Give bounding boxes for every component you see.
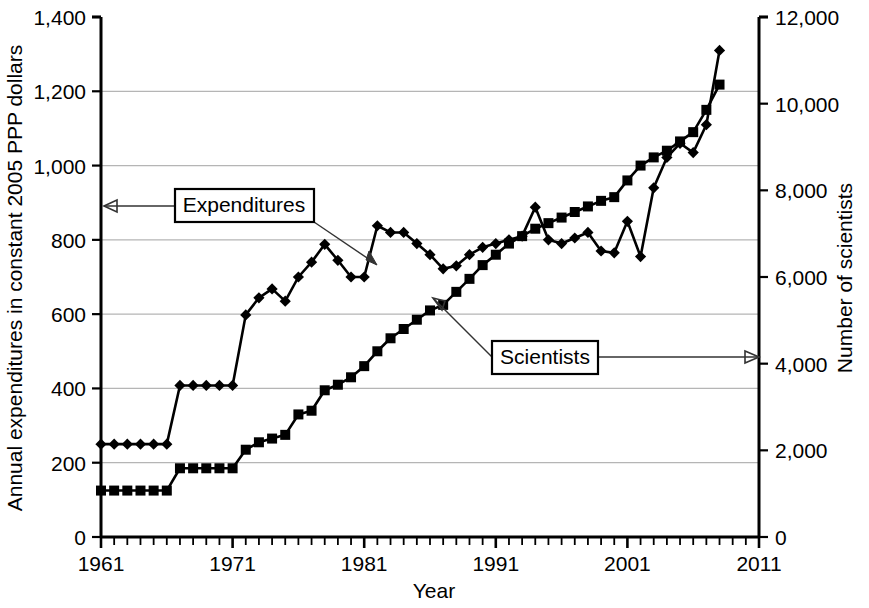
data-point-marker bbox=[386, 333, 396, 343]
data-point-marker bbox=[307, 406, 317, 416]
data-point-marker bbox=[478, 260, 488, 270]
data-point-marker bbox=[122, 486, 132, 496]
data-point-marker bbox=[530, 224, 540, 234]
data-point-marker bbox=[346, 372, 356, 382]
data-point-marker bbox=[228, 463, 238, 473]
data-point-marker bbox=[188, 463, 198, 473]
data-point-marker bbox=[241, 445, 251, 455]
data-point-marker bbox=[149, 486, 159, 496]
data-point-marker bbox=[675, 136, 685, 146]
data-point-marker bbox=[201, 463, 211, 473]
data-point-marker bbox=[557, 213, 567, 223]
y-axis-left-title: Annual expenditures in constant 2005 PPP… bbox=[3, 45, 26, 512]
data-point-marker bbox=[359, 361, 369, 371]
y-left-tick-label: 400 bbox=[51, 377, 86, 400]
data-point-marker bbox=[280, 430, 290, 440]
data-point-marker bbox=[214, 463, 224, 473]
data-point-marker bbox=[135, 486, 145, 496]
y-left-tick-label: 1,400 bbox=[33, 6, 86, 29]
data-point-marker bbox=[399, 324, 409, 334]
y-axis-right-title: Number of scientists bbox=[833, 183, 856, 373]
data-point-marker bbox=[636, 161, 646, 171]
data-point-marker bbox=[543, 218, 553, 228]
y-right-tick-label: 4,000 bbox=[775, 353, 828, 376]
data-point-marker bbox=[570, 207, 580, 217]
x-tick-label: 1981 bbox=[341, 552, 388, 575]
y-right-tick-label: 8,000 bbox=[775, 179, 828, 202]
data-point-marker bbox=[596, 196, 606, 206]
data-point-marker bbox=[491, 250, 501, 260]
data-point-marker bbox=[293, 409, 303, 419]
data-point-marker bbox=[175, 463, 185, 473]
y-left-tick-label: 200 bbox=[51, 452, 86, 475]
y-left-tick-label: 600 bbox=[51, 303, 86, 326]
x-tick-label: 1971 bbox=[209, 552, 256, 575]
data-point-marker bbox=[254, 437, 264, 447]
data-point-marker bbox=[662, 146, 672, 156]
x-tick-label: 2001 bbox=[604, 552, 651, 575]
expenditures-label-text: Expenditures bbox=[183, 193, 306, 216]
data-point-marker bbox=[425, 305, 435, 315]
data-point-marker bbox=[701, 105, 711, 115]
data-point-marker bbox=[583, 201, 593, 211]
data-point-marker bbox=[622, 175, 632, 185]
y-right-tick-label: 12,000 bbox=[775, 6, 839, 29]
data-point-marker bbox=[504, 239, 514, 249]
data-point-marker bbox=[649, 152, 659, 162]
y-right-tick-label: 0 bbox=[775, 526, 787, 549]
data-point-marker bbox=[333, 380, 343, 390]
data-point-marker bbox=[609, 192, 619, 202]
x-tick-label: 1961 bbox=[78, 552, 125, 575]
data-point-marker bbox=[162, 486, 172, 496]
expenditures-scientists-line-chart: 02004006008001,0001,2001,400 02,0004,000… bbox=[0, 0, 869, 608]
data-point-marker bbox=[372, 346, 382, 356]
y-left-tick-label: 800 bbox=[51, 229, 86, 252]
x-tick-label: 1991 bbox=[472, 552, 519, 575]
data-point-marker bbox=[320, 385, 330, 395]
x-axis-title: Year bbox=[413, 579, 455, 602]
y-left-tick-label: 0 bbox=[74, 526, 86, 549]
y-right-tick-label: 10,000 bbox=[775, 93, 839, 116]
y-left-tick-label: 1,000 bbox=[33, 155, 86, 178]
data-point-marker bbox=[267, 434, 277, 444]
data-point-marker bbox=[96, 486, 106, 496]
data-point-marker bbox=[715, 80, 725, 90]
data-point-marker bbox=[688, 127, 698, 137]
data-point-marker bbox=[412, 315, 422, 325]
data-point-marker bbox=[517, 231, 527, 241]
data-point-marker bbox=[464, 274, 474, 284]
x-tick-label: 2011 bbox=[736, 552, 781, 575]
y-right-tick-label: 6,000 bbox=[775, 266, 828, 289]
y-right-tick-label: 2,000 bbox=[775, 439, 828, 462]
scientists-label-text: Scientists bbox=[500, 345, 590, 368]
y-left-tick-label: 1,200 bbox=[33, 80, 86, 103]
chart-container: 02004006008001,0001,2001,400 02,0004,000… bbox=[0, 0, 869, 608]
data-point-marker bbox=[109, 486, 119, 496]
data-point-marker bbox=[451, 287, 461, 297]
